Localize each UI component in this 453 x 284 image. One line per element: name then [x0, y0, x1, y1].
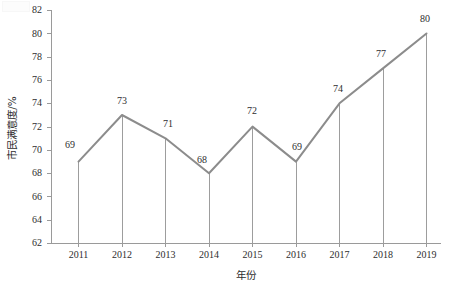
- x-axis-tick-labels: 2011 2012 2013 2014 2015 2016 2017 2018 …: [69, 249, 437, 260]
- data-label: 74: [333, 83, 343, 94]
- y-tick-label: 78: [32, 51, 42, 62]
- y-tick-label: 80: [32, 28, 42, 39]
- y-tick-label: 72: [32, 121, 42, 132]
- data-point-labels: 69 73 71 68 72 69 74 77 80: [65, 13, 430, 165]
- x-axis-ticks: [79, 244, 427, 248]
- x-tick-label: 2012: [112, 249, 132, 260]
- y-tick-label: 82: [32, 4, 42, 15]
- data-label: 69: [292, 141, 302, 152]
- data-label: 69: [65, 139, 75, 150]
- x-axis-title: 年份: [236, 269, 257, 281]
- data-label: 80: [420, 13, 430, 24]
- drop-lines: [79, 34, 427, 244]
- x-tick-label: 2017: [330, 249, 350, 260]
- data-label: 72: [247, 105, 257, 116]
- y-tick-label: 76: [32, 74, 42, 85]
- y-axis-title: 市民满意度/%: [6, 96, 18, 160]
- y-tick-label: 74: [32, 97, 42, 108]
- x-tick-label: 2013: [156, 249, 176, 260]
- y-tick-label: 64: [32, 214, 42, 225]
- y-axis-ticks: [47, 11, 52, 244]
- x-tick-label: 2018: [373, 249, 393, 260]
- line-chart-plot: 82 80 78 76 74 72 70 68 66 64 62 2011: [0, 0, 453, 284]
- y-tick-label: 68: [32, 167, 42, 178]
- data-label: 77: [376, 48, 386, 59]
- x-tick-label: 2019: [417, 249, 437, 260]
- x-tick-label: 2011: [69, 249, 89, 260]
- chart-container: 82 80 78 76 74 72 70 68 66 64 62 2011: [0, 0, 453, 284]
- x-tick-label: 2014: [199, 249, 219, 260]
- data-label: 68: [197, 154, 207, 165]
- y-tick-label: 66: [32, 191, 42, 202]
- x-tick-label: 2016: [286, 249, 306, 260]
- y-tick-label: 62: [32, 237, 42, 248]
- x-tick-label: 2015: [243, 249, 263, 260]
- data-label: 71: [163, 118, 173, 129]
- data-label: 73: [117, 95, 127, 106]
- y-axis-tick-labels: 82 80 78 76 74 72 70 68 66 64 62: [32, 4, 42, 248]
- y-tick-label: 70: [32, 144, 42, 155]
